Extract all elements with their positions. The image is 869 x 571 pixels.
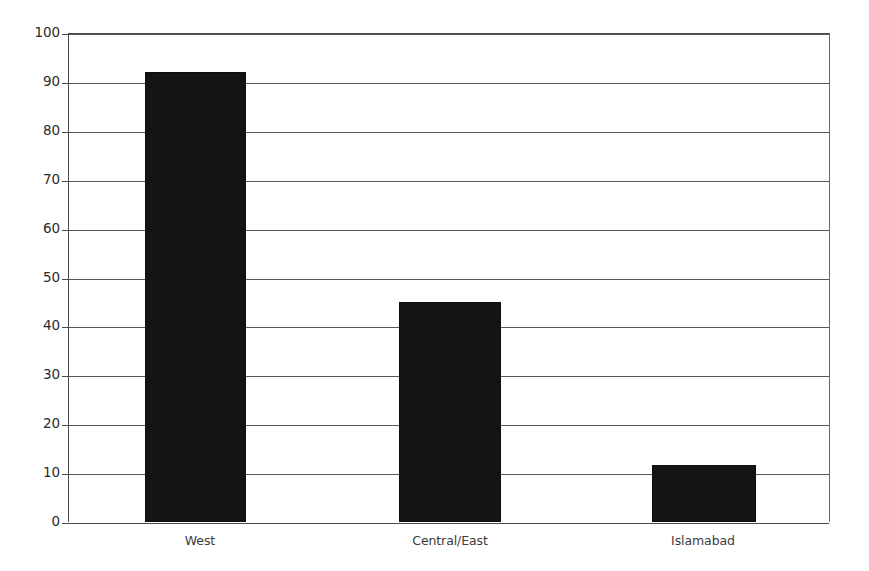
y-tick-30 [62, 376, 69, 377]
gridline-100 [69, 34, 829, 35]
y-tick-label-30: 30 [14, 368, 60, 382]
x-axis-label-2: Islamabad [613, 534, 793, 548]
y-tick-label-70: 70 [14, 173, 60, 187]
gridline-0 [69, 523, 829, 524]
y-tick-0 [62, 523, 69, 524]
bar-central-east [399, 302, 501, 522]
plot-area [68, 33, 830, 522]
y-tick-50 [62, 279, 69, 280]
y-tick-label-100: 100 [14, 26, 60, 40]
y-axis-labels: 1009080706050403020100 [8, 33, 60, 522]
y-tick-label-90: 90 [14, 75, 60, 89]
y-tick-80 [62, 132, 69, 133]
y-tick-label-60: 60 [14, 222, 60, 236]
bar-west [145, 72, 246, 522]
y-tick-label-40: 40 [14, 319, 60, 333]
y-tick-10 [62, 474, 69, 475]
y-tick-100 [62, 34, 69, 35]
y-tick-label-20: 20 [14, 417, 60, 431]
y-tick-20 [62, 425, 69, 426]
y-tick-60 [62, 230, 69, 231]
y-tick-label-50: 50 [14, 271, 60, 285]
y-tick-70 [62, 181, 69, 182]
bar-islamabad [652, 465, 756, 522]
bar-chart: 1009080706050403020100 WestCentral/EastI… [0, 0, 869, 571]
y-tick-90 [62, 83, 69, 84]
y-tick-label-10: 10 [14, 466, 60, 480]
x-axis-label-0: West [110, 534, 290, 548]
y-tick-label-0: 0 [14, 515, 60, 529]
y-tick-40 [62, 327, 69, 328]
x-axis-label-1: Central/East [360, 534, 540, 548]
y-tick-label-80: 80 [14, 124, 60, 138]
